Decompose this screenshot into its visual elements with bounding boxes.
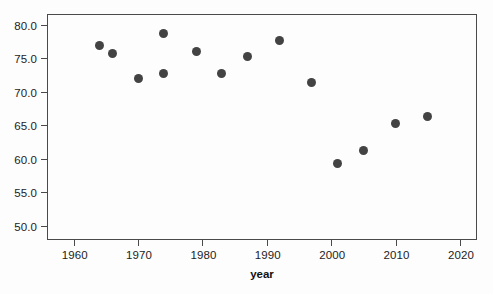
- y-axis-tick: 60.0: [41, 159, 48, 160]
- x-axis-tick-label: 1970: [126, 249, 152, 261]
- x-axis-tick: 2020: [460, 239, 461, 246]
- data-point: [134, 74, 143, 83]
- x-axis-tick-label: 1990: [255, 249, 281, 261]
- data-point: [333, 159, 342, 168]
- x-axis-tick: 1970: [138, 239, 139, 246]
- x-axis-tick: 1960: [74, 239, 75, 246]
- y-axis-tick: 75.0: [41, 58, 48, 59]
- y-axis-tick: 80.0: [41, 25, 48, 26]
- y-axis-tick: 65.0: [41, 125, 48, 126]
- data-point: [423, 112, 432, 121]
- data-point: [217, 69, 226, 78]
- data-point: [359, 146, 368, 155]
- y-axis-tick-label: 80.0: [14, 20, 37, 32]
- scatter-chart-figure: 50.055.060.065.070.075.080.0196019701980…: [0, 0, 493, 294]
- data-point: [159, 29, 168, 38]
- x-axis-title: year: [47, 268, 477, 280]
- clipped-caption: [0, 288, 493, 294]
- x-axis-tick-label: 2000: [319, 249, 345, 261]
- data-point: [192, 47, 201, 56]
- y-axis-tick-label: 70.0: [14, 87, 37, 99]
- data-point: [307, 78, 316, 87]
- plot-area: 50.055.060.065.070.075.080.0196019701980…: [47, 14, 477, 240]
- y-axis-tick-label: 50.0: [14, 221, 37, 233]
- y-axis-tick: 70.0: [41, 92, 48, 93]
- data-points-layer: [48, 15, 476, 239]
- y-axis-tick-label: 65.0: [14, 120, 37, 132]
- data-point: [275, 36, 284, 45]
- x-axis-tick: 2000: [331, 239, 332, 246]
- y-axis-tick: 50.0: [41, 226, 48, 227]
- y-axis-tick-label: 55.0: [14, 187, 37, 199]
- data-point: [95, 41, 104, 50]
- x-axis-tick-label: 2020: [448, 249, 474, 261]
- x-axis-tick-label: 1980: [190, 249, 216, 261]
- y-axis-tick-label: 75.0: [14, 53, 37, 65]
- x-axis-tick: 1980: [202, 239, 203, 246]
- data-point: [159, 69, 168, 78]
- x-axis-tick: 1990: [267, 239, 268, 246]
- data-point: [108, 49, 117, 58]
- x-axis-tick-label: 2010: [384, 249, 410, 261]
- x-axis-tick: 2010: [396, 239, 397, 246]
- data-point: [243, 52, 252, 61]
- y-axis-tick: 55.0: [41, 192, 48, 193]
- x-axis-tick-label: 1960: [62, 249, 88, 261]
- data-point: [391, 119, 400, 128]
- y-axis-tick-label: 60.0: [14, 154, 37, 166]
